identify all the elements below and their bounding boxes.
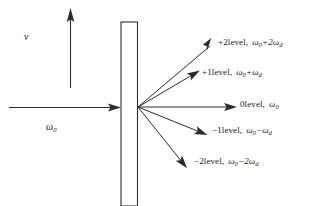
- ray-minus-2: [138, 107, 190, 171]
- ray-plus-1: [138, 67, 202, 107]
- ray-zero: [138, 103, 237, 111]
- grating-barrier: [121, 22, 138, 206]
- order-label-zero: 0level,ω0: [240, 100, 279, 110]
- order-label-plus-2: +2level,ω0+2ωd: [218, 38, 283, 48]
- diffraction-diagram: v ω0 +2level,ω0+2ωd +1level,ω0+ωd 0level…: [0, 0, 318, 206]
- order-label-minus-2: −2level,ω0−2ωd: [194, 157, 259, 167]
- order-label-minus-1: −1level,ω0−ωd: [212, 126, 272, 136]
- vertical-axis-label: v: [24, 32, 29, 42]
- ray-minus-1: [138, 107, 209, 139]
- incident-beam-label: ω0: [46, 122, 57, 133]
- incident-beam-arrow: [9, 103, 121, 111]
- diffracted-rays: [138, 38, 237, 171]
- order-label-plus-1: +1level,ω0+ωd: [202, 68, 262, 78]
- vertical-axis-arrow: [67, 8, 75, 88]
